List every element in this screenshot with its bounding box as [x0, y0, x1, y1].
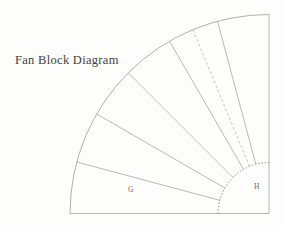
fan-blade-seam-line	[77, 162, 220, 200]
piece-label-G: G	[128, 185, 134, 194]
fan-blade-seam-line	[128, 73, 233, 178]
fan-blade-seam-line	[170, 41, 244, 169]
piece-label-H: H	[254, 182, 260, 191]
fan-block-diagram: GH	[0, 0, 283, 226]
fan-blade-lines	[77, 21, 256, 200]
piece-labels: GH	[128, 182, 260, 194]
fan-blade-seam-line	[97, 114, 225, 188]
scanned-page: Fan Block Diagram GH	[0, 0, 283, 226]
fan-blade-seam-line	[218, 21, 256, 164]
